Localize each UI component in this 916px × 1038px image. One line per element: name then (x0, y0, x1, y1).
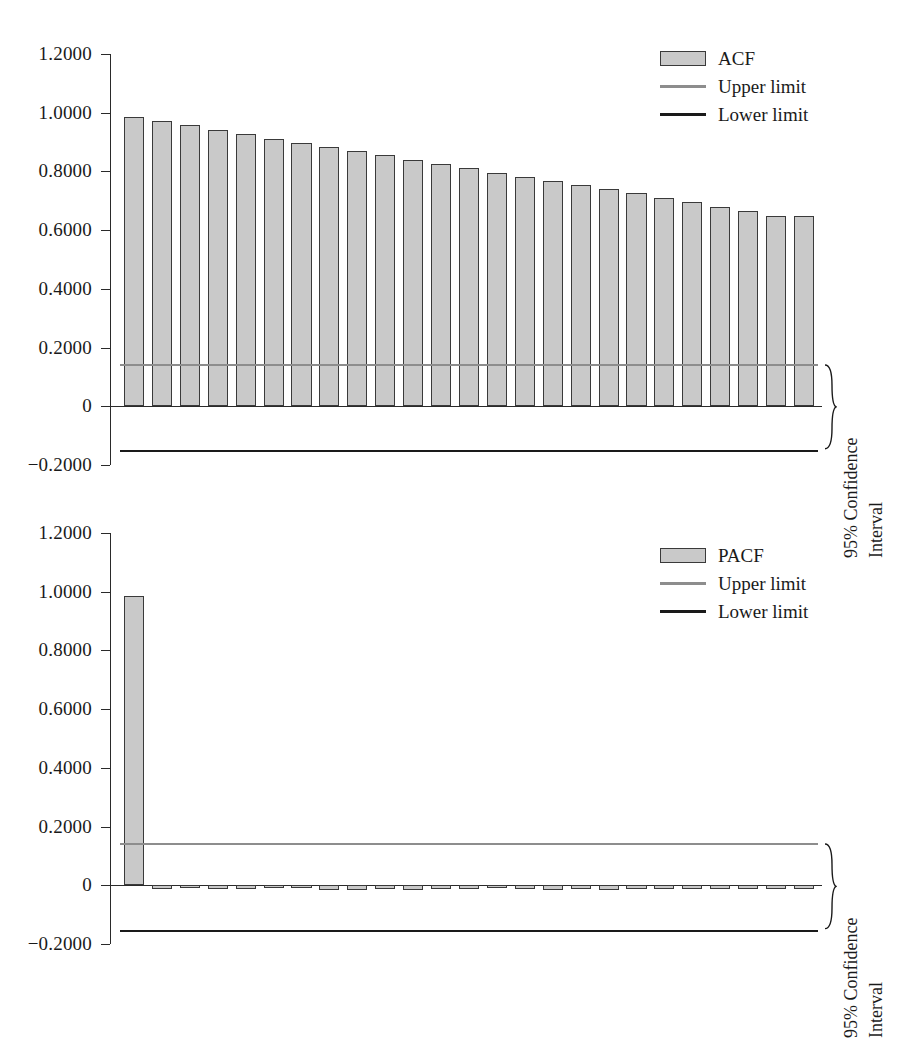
y-axis-tick (101, 709, 110, 710)
legend-item[interactable]: ACF (660, 46, 808, 71)
chart-legend: ACFUpper limitLower limit (660, 46, 808, 130)
bar (375, 885, 395, 889)
bar (543, 885, 563, 889)
bar (375, 155, 395, 406)
bar (738, 211, 758, 406)
y-axis-tick-label: 0.8000 (0, 161, 92, 180)
legend-label: ACF (718, 46, 755, 71)
acf-chart: 1.20001.00000.80000.60000.40000.20000−0.… (0, 0, 916, 500)
legend-line-swatch-icon (660, 113, 706, 116)
bar (571, 185, 591, 406)
legend-box-swatch-icon (660, 51, 706, 66)
y-axis-tick-label: 1.0000 (0, 582, 92, 601)
y-axis-tick-label: 0.6000 (0, 699, 92, 718)
y-axis-tick-label: 0.2000 (0, 817, 92, 836)
bar (319, 885, 339, 890)
bar (766, 216, 786, 406)
y-axis-tick-label: 0 (0, 875, 92, 894)
bar (515, 177, 535, 407)
bar (431, 885, 451, 889)
zero-baseline (110, 406, 822, 407)
bar (543, 181, 563, 406)
bar (152, 885, 172, 889)
confidence-interval-label-line1: 95% Confidence (842, 917, 860, 1037)
bar (347, 151, 367, 406)
y-axis-tick-label: 0.4000 (0, 279, 92, 298)
legend-label: Upper limit (718, 571, 806, 596)
y-axis-tick (101, 171, 110, 172)
y-axis-tick-label: 0.2000 (0, 338, 92, 357)
bar (291, 885, 311, 888)
legend-item[interactable]: Upper limit (660, 74, 808, 99)
bar (794, 216, 814, 406)
bar (682, 885, 702, 889)
y-axis-tick (101, 592, 110, 593)
bar (291, 143, 311, 407)
legend-label: Lower limit (718, 102, 808, 127)
y-axis-tick (101, 54, 110, 55)
legend-item[interactable]: Lower limit (660, 599, 808, 624)
y-axis-tick-label: 1.2000 (0, 523, 92, 542)
bar (403, 885, 423, 890)
upper-limit-line (120, 843, 818, 845)
legend-label: Upper limit (718, 74, 806, 99)
bar (515, 885, 535, 889)
bar (459, 885, 479, 888)
legend-item[interactable]: Upper limit (660, 571, 808, 596)
pacf-chart: 1.20001.00000.80000.60000.40000.20000−0.… (0, 500, 916, 982)
bar (654, 885, 674, 889)
bar (710, 207, 730, 407)
bar (794, 885, 814, 889)
bar (180, 885, 200, 888)
y-axis-tick-label: 1.2000 (0, 44, 92, 63)
y-axis-tick-label: 0.8000 (0, 640, 92, 659)
bar (319, 147, 339, 406)
lower-limit-line (120, 930, 818, 932)
y-axis-tick (101, 289, 110, 290)
bar (347, 885, 367, 889)
bar (459, 168, 479, 406)
curly-brace-icon (824, 843, 837, 930)
bar (682, 202, 702, 406)
bar (124, 596, 144, 885)
y-axis-tick (101, 944, 110, 945)
bar (487, 885, 507, 888)
bar (599, 189, 619, 406)
bar (487, 173, 507, 407)
legend-item[interactable]: PACF (660, 543, 808, 568)
y-axis-tick (101, 406, 110, 407)
y-axis-tick (101, 650, 110, 651)
legend-label: Lower limit (718, 599, 808, 624)
curly-brace-icon (824, 364, 837, 450)
bar (124, 117, 144, 406)
legend-box-swatch-icon (660, 548, 706, 563)
chart-legend: PACFUpper limitLower limit (660, 543, 808, 627)
bar (654, 198, 674, 406)
legend-line-swatch-icon (660, 610, 706, 613)
y-axis-tick (101, 827, 110, 828)
bar (431, 164, 451, 406)
y-axis-spine (110, 54, 111, 465)
y-axis-tick (101, 465, 110, 466)
bar (571, 885, 591, 889)
y-axis-tick (101, 885, 110, 886)
legend-item[interactable]: Lower limit (660, 102, 808, 127)
bar (208, 885, 228, 889)
y-axis-tick-label: −0.2000 (0, 455, 92, 474)
legend-line-swatch-icon (660, 85, 706, 88)
bar (403, 160, 423, 407)
bar (710, 885, 730, 889)
y-axis-tick-label: −0.2000 (0, 934, 92, 953)
lower-limit-line (120, 450, 818, 452)
bar (236, 885, 256, 889)
bar (766, 885, 786, 889)
y-axis-tick (101, 533, 110, 534)
y-axis-tick-label: 0.6000 (0, 220, 92, 239)
y-axis-tick (101, 768, 110, 769)
y-axis-tick-label: 0.4000 (0, 758, 92, 777)
bar (626, 193, 646, 406)
bar (738, 885, 758, 889)
legend-label: PACF (718, 543, 764, 568)
y-axis-spine (110, 533, 111, 944)
bar (626, 885, 646, 888)
